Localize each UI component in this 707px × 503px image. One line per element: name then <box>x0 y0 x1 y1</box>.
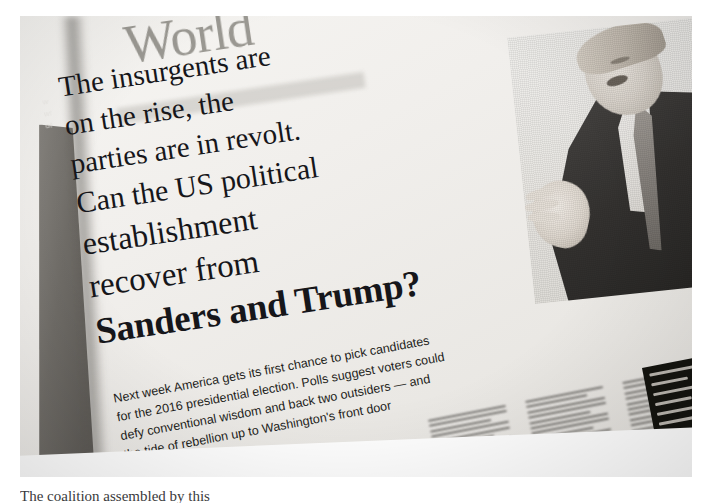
under-sheet-fragment-1: w <box>42 96 51 109</box>
under-sheet-fragment-2: wi <box>43 108 52 121</box>
newspaper-photograph: w wi of World The insurgents are <box>20 16 692 477</box>
under-sheet-fragment-3: of <box>45 119 54 132</box>
cut-off-caption: The coalition assembled by this <box>20 489 440 503</box>
screenshot-canvas: w wi of World The insurgents are <box>0 0 707 503</box>
